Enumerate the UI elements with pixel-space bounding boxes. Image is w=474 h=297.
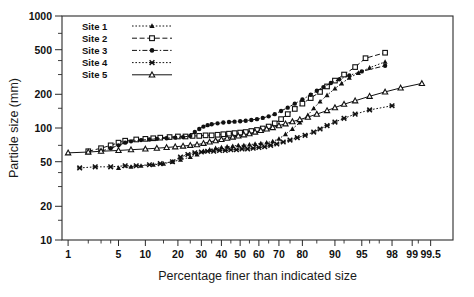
y-tick-label: 1000 (29, 10, 53, 22)
data-point-x-cross (367, 108, 372, 113)
data-point-x-cross (185, 152, 190, 157)
x-tick-label: 98 (386, 248, 398, 260)
data-point-filled-circle (193, 130, 197, 134)
data-point-filled-circle (147, 137, 151, 141)
data-point-filled-circle (201, 124, 205, 128)
data-point-filled-circle (315, 89, 319, 93)
data-point-x-cross (287, 138, 292, 143)
data-point-filled-circle (209, 122, 213, 126)
data-point-open-square (300, 101, 305, 106)
x-tick-label: 10 (140, 248, 152, 260)
data-point-open-square (353, 65, 358, 70)
data-point-open-square (221, 132, 226, 137)
data-point-filled-circle (123, 140, 127, 144)
x-tick-label: 95 (356, 248, 368, 260)
data-point-open-triangle (180, 143, 185, 148)
data-point-x-cross (223, 148, 228, 153)
data-point-x-cross (317, 127, 322, 132)
x-tick-label: 5 (116, 248, 122, 260)
data-point-open-triangle (314, 111, 319, 116)
legend-item-site-1[interactable]: Site 1 (82, 21, 172, 32)
data-point-open-triangle (188, 143, 193, 148)
data-series-layer (65, 50, 424, 170)
data-point-open-square (342, 72, 347, 77)
y-axis-label: Particle size (mm) (7, 78, 21, 178)
data-point-x-cross (311, 130, 316, 135)
y-tick-label: 100 (34, 122, 52, 134)
data-point-filled-circle (300, 97, 304, 101)
data-point-x-cross (77, 166, 82, 171)
data-point-open-square (203, 133, 208, 138)
data-point-filled-circle (293, 101, 297, 105)
data-point-open-triangle (352, 98, 357, 103)
data-point-open-triangle (297, 117, 302, 122)
series-line (119, 62, 386, 168)
data-point-open-triangle (213, 138, 218, 143)
data-point-filled-circle (286, 105, 290, 109)
data-point-filled-triangle (290, 126, 295, 131)
x-tick-label: 90 (329, 248, 341, 260)
data-point-open-triangle (65, 150, 70, 155)
y-tick-label: 20 (40, 200, 52, 212)
y-tick-label: 10 (40, 234, 52, 246)
data-point-open-triangle (201, 141, 206, 146)
x-tick-label: 99 (406, 248, 418, 260)
legend-item-site-2[interactable]: Site 2 (82, 33, 172, 44)
legend-item-site-3[interactable]: Site 3 (82, 45, 172, 56)
y-tick-label: 500 (34, 44, 52, 56)
data-point-filled-circle (347, 73, 351, 77)
data-point-x-cross (352, 112, 357, 117)
data-point-x-cross (93, 165, 98, 170)
data-point-filled-circle (244, 119, 248, 123)
data-point-open-triangle (173, 144, 178, 149)
particle-size-distribution-chart: 1020501002005001000 15102030405060708090… (0, 0, 474, 297)
data-point-filled-triangle (311, 106, 316, 111)
data-point-filled-circle (279, 109, 283, 113)
data-point-x-cross (149, 60, 155, 65)
x-tick-label: 50 (234, 248, 246, 260)
data-point-x-cross (256, 145, 261, 150)
data-point-x-cross (245, 147, 250, 152)
x-tick-label: 70 (273, 248, 285, 260)
legend-item-site-5[interactable]: Site 5 (82, 69, 172, 80)
data-point-open-triangle (290, 119, 295, 124)
legend-item-site-4[interactable]: Site 4 (82, 57, 172, 68)
data-point-open-triangle (194, 142, 199, 147)
data-point-filled-triangle (383, 59, 388, 64)
data-point-x-cross (134, 163, 139, 168)
legend-label: Site 5 (82, 69, 108, 80)
y-axis-ticks: 1020501002005001000 (29, 10, 62, 246)
data-point-filled-circle (227, 120, 231, 124)
x-tick-label: 30 (196, 248, 208, 260)
data-point-x-cross (268, 143, 273, 148)
data-point-open-square (150, 36, 155, 41)
data-point-open-triangle (341, 101, 346, 106)
data-point-open-square (363, 56, 368, 61)
data-point-open-triangle (143, 146, 148, 151)
data-point-open-triangle (324, 108, 329, 113)
data-point-filled-circle (321, 85, 325, 89)
data-point-filled-circle (221, 120, 225, 124)
data-point-filled-triangle (339, 81, 344, 86)
data-point-x-cross (332, 120, 337, 125)
data-point-open-square (197, 134, 202, 139)
data-point-x-cross (205, 149, 210, 154)
data-point-open-square (279, 117, 284, 122)
legend-label: Site 4 (82, 57, 108, 68)
data-point-filled-circle (215, 121, 219, 125)
data-point-filled-circle (188, 134, 192, 138)
data-point-x-cross (295, 135, 300, 140)
y-tick-label: 200 (34, 88, 52, 100)
data-point-x-cross (123, 163, 128, 168)
x-tick-label: 20 (172, 248, 184, 260)
x-tick-label: 60 (253, 248, 265, 260)
data-point-x-cross (239, 147, 244, 152)
data-point-open-square (292, 107, 297, 112)
data-point-filled-circle (238, 119, 242, 123)
data-point-x-cross (274, 142, 279, 147)
data-point-x-cross (192, 151, 197, 156)
data-point-filled-circle (108, 146, 112, 150)
data-point-filled-circle (383, 64, 387, 68)
y-tick-label: 50 (40, 156, 52, 168)
data-point-open-square (285, 112, 290, 117)
